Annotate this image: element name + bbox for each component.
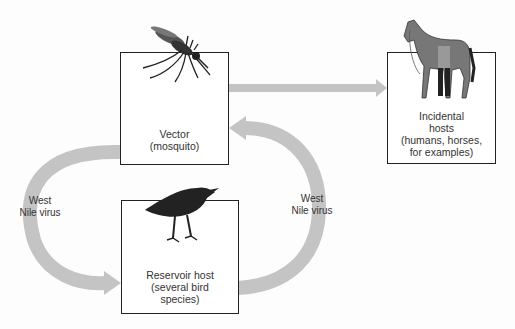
vector-label: Vector (mosquito) (121, 128, 228, 152)
horse-and-human-icon (400, 18, 480, 100)
incidental-label: Incidental hosts (humans, horses, for ex… (388, 110, 495, 158)
right-flow-label: West Nile virus (282, 193, 342, 217)
arrow-vector-to-reservoir (30, 152, 121, 295)
left-flow-label: West Nile virus (10, 195, 70, 219)
mosquito-icon (140, 20, 220, 85)
bird-icon (135, 180, 225, 250)
arrow-vector-to-incidental (228, 79, 387, 97)
reservoir-label: Reservoir host (several bird species) (122, 269, 238, 305)
